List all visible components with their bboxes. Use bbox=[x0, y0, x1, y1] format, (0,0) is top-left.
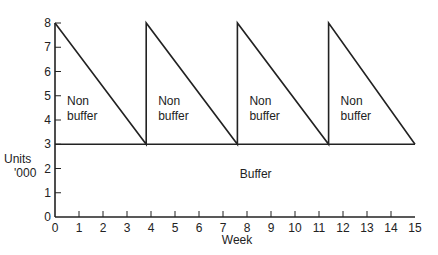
x-tick-label: 9 bbox=[268, 221, 275, 235]
y-tick-label: 3 bbox=[44, 137, 51, 151]
annotation-label: Nonbuffer bbox=[341, 94, 371, 123]
x-tick-label: 13 bbox=[360, 221, 374, 235]
y-tick-label: 6 bbox=[44, 65, 51, 79]
x-tick-label: 12 bbox=[336, 221, 350, 235]
stock-level-line bbox=[55, 23, 415, 144]
annotation-label: Buffer bbox=[240, 167, 272, 181]
sawtooth-inventory-chart: 0123456780123456789101112131415 Nonbuffe… bbox=[0, 0, 438, 255]
y-tick-label: 7 bbox=[44, 40, 51, 54]
y-tick-label: 8 bbox=[44, 16, 51, 30]
x-tick-label: 1 bbox=[76, 221, 83, 235]
y-tick-label: 1 bbox=[44, 186, 51, 200]
annotation-label: Nonbuffer bbox=[67, 94, 97, 123]
x-tick-label: 0 bbox=[52, 221, 59, 235]
y-tick-label: 4 bbox=[44, 113, 51, 127]
x-tick-label: 5 bbox=[172, 221, 179, 235]
x-tick-label: 14 bbox=[384, 221, 398, 235]
annotation-label: Nonbuffer bbox=[249, 94, 279, 123]
x-tick-label: 10 bbox=[288, 221, 302, 235]
y-tick-label: 5 bbox=[44, 89, 51, 103]
y-axis-label-line1: Units bbox=[4, 152, 31, 166]
x-tick-label: 2 bbox=[100, 221, 107, 235]
x-tick-label: 4 bbox=[148, 221, 155, 235]
y-tick-label: 2 bbox=[44, 162, 51, 176]
annotations: NonbufferNonbufferNonbufferNonbufferBuff… bbox=[67, 94, 371, 181]
annotation-label: Nonbuffer bbox=[158, 94, 188, 123]
x-tick-label: 3 bbox=[124, 221, 131, 235]
series-lines bbox=[55, 23, 415, 144]
x-axis-label: Week bbox=[222, 233, 253, 247]
y-tick-label: 0 bbox=[44, 210, 51, 224]
x-tick-label: 11 bbox=[313, 221, 326, 235]
x-tick-label: 6 bbox=[196, 221, 203, 235]
axes: 0123456780123456789101112131415 bbox=[44, 16, 422, 235]
x-tick-label: 15 bbox=[408, 221, 422, 235]
y-axis-label-line2: '000 bbox=[14, 166, 37, 180]
